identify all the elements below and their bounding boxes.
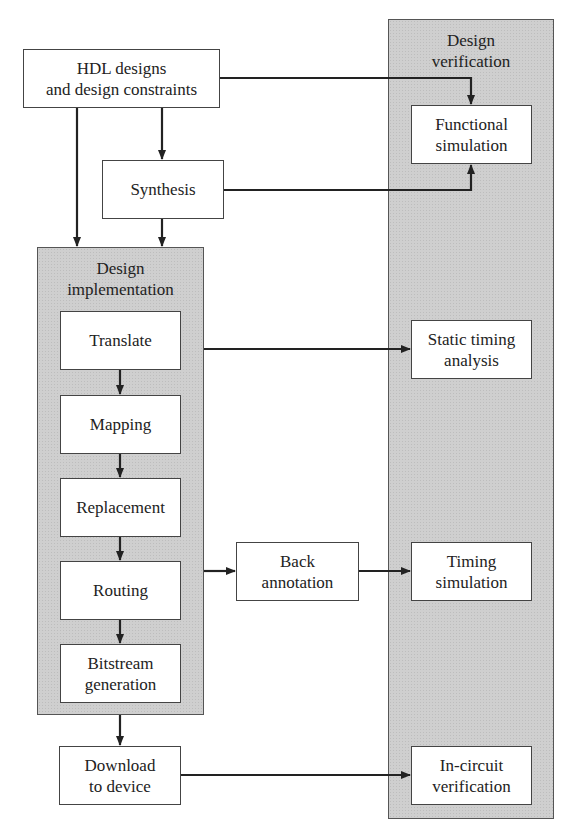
synthesis-node: Synthesis <box>102 160 224 219</box>
design-implementation-title: Design implementation <box>38 258 203 300</box>
bitstream-generation-node: Bitstream generation <box>60 644 181 703</box>
design-verification-title: Design verification <box>389 30 553 72</box>
hdl-designs-node: HDL designs and design constraints <box>23 49 220 108</box>
download-to-device-node: Download to device <box>59 746 181 805</box>
back-annotation-node: Back annotation <box>236 542 359 601</box>
replacement-node: Replacement <box>60 478 181 537</box>
functional-simulation-node: Functional simulation <box>411 105 532 164</box>
in-circuit-verification-node: In-circuit verification <box>411 746 532 805</box>
static-timing-analysis-node: Static timing analysis <box>411 320 532 379</box>
translate-node: Translate <box>60 311 181 370</box>
timing-simulation-node: Timing simulation <box>411 542 532 601</box>
mapping-node: Mapping <box>60 395 181 454</box>
routing-node: Routing <box>60 561 181 620</box>
